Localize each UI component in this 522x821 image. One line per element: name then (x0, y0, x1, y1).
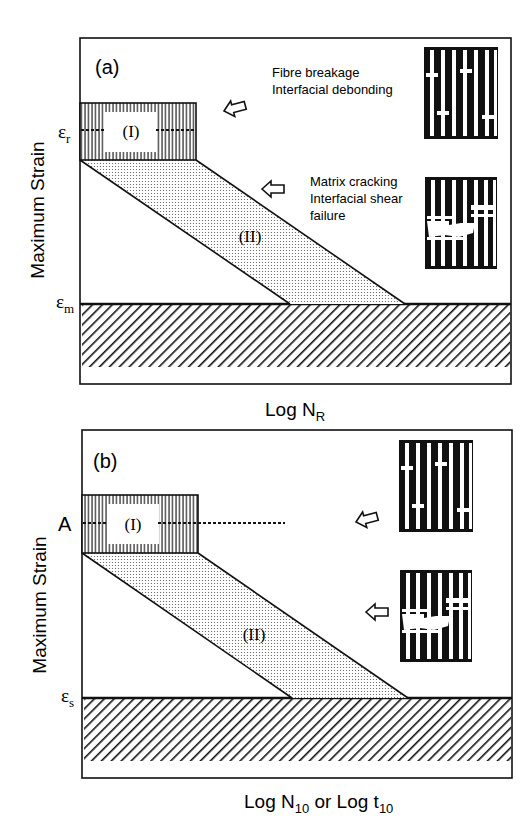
panel-b-fibre-breakage-icon (399, 440, 473, 532)
panel-a: (I) (II) (a) Fibre breakage Interfacial … (27, 38, 511, 424)
matrix-cracking-icon (425, 177, 497, 269)
panel-a-region-I-label: (I) (123, 122, 140, 141)
panel-b-region-I-label: (I) (125, 515, 142, 534)
panel-a-label: (a) (95, 56, 119, 78)
fibre-breakage-icon (424, 47, 498, 139)
panel-b-matrix-cracking-icon (400, 570, 472, 662)
panel-a-epsilon-r-label: εr (58, 121, 71, 146)
fatigue-life-diagrams: (I) (II) (a) Fibre breakage Interfacial … (0, 0, 522, 821)
panel-a-annotation-mid-2: Interfacial shear (310, 191, 403, 206)
panel-a-annotation-mid-1: Matrix cracking (310, 174, 397, 189)
panel-a-annotation-top-1: Fibre breakage (272, 65, 359, 80)
panel-b-x-axis-label: Log N10 or Log t10 (244, 791, 393, 816)
panel-a-region-II-label: (II) (239, 227, 262, 246)
panel-b-epsilon-s-label: εs (61, 685, 74, 710)
panel-a-annotation-mid-3: failure (310, 208, 345, 223)
panel-a-y-axis-label: Maximum Strain (27, 141, 48, 278)
panel-a-x-axis-label: Log NR (265, 399, 325, 424)
panel-b-y-axis-label: Maximum Strain (29, 536, 50, 673)
panel-b-hatch-region (84, 698, 511, 761)
panel-a-hatch-region (82, 304, 510, 367)
panel-b-label: (b) (93, 450, 117, 472)
panel-b-region-II-label: (II) (243, 625, 266, 644)
panel-a-epsilon-m-label: εm (56, 291, 74, 316)
panel-b: (I) (II) (b) Maximum Strain A εs Log N10… (29, 430, 512, 816)
panel-b-A-label: A (58, 513, 72, 535)
panel-a-annotation-top-2: Interfacial debonding (272, 82, 393, 97)
